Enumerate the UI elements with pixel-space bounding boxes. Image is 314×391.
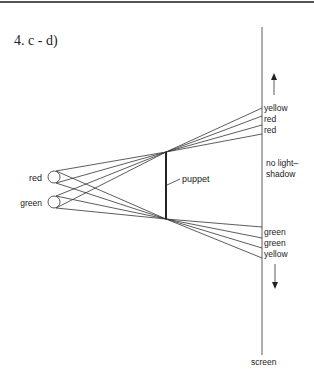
- red-light-icon: [48, 171, 60, 183]
- screen-label-yellow-bottom: yellow: [264, 249, 288, 259]
- screen-label-red-2: red: [264, 125, 277, 135]
- shadow-label-line1: no light–: [266, 158, 298, 168]
- ray: [166, 219, 262, 238]
- shadow-label-line2: shadow: [266, 169, 296, 179]
- shadow-diagram: red green puppet yellow red red no light…: [0, 0, 314, 391]
- ray: [166, 125, 262, 152]
- puppet-label: puppet: [182, 174, 210, 184]
- puppet-leader-line: [167, 179, 180, 185]
- ray: [166, 108, 262, 152]
- ray: [166, 134, 262, 152]
- screen-label-green-1: green: [264, 227, 286, 237]
- ray: [56, 152, 166, 196]
- ray: [56, 196, 166, 219]
- ray: [56, 171, 166, 219]
- ray: [166, 116, 262, 152]
- red-light-label: red: [29, 173, 42, 183]
- down-arrowhead-icon: [272, 282, 278, 289]
- screen-label-yellow-top: yellow: [264, 103, 288, 113]
- up-arrowhead-icon: [271, 73, 277, 80]
- screen-label-red-1: red: [264, 114, 277, 124]
- ray: [166, 219, 262, 258]
- green-light-icon: [48, 196, 60, 208]
- screen-label: screen: [251, 357, 277, 367]
- ray: [56, 152, 166, 171]
- green-light-label: green: [20, 198, 42, 208]
- screen-label-green-2: green: [264, 238, 286, 248]
